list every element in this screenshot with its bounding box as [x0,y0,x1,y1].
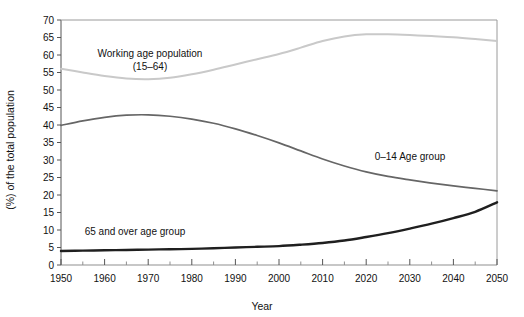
chart-canvas: 0510152025303540455055606570 19501960197… [0,0,524,317]
x-tick-labels: 1950196019701980199020002010202020302040… [50,273,509,284]
y-tick-label: 20 [43,190,55,201]
series-label: 65 and over age group [85,226,186,237]
y-tick-label: 30 [43,155,55,166]
y-tick-labels: 0510152025303540455055606570 [43,15,55,271]
x-tick-label: 1980 [181,273,204,284]
y-tick-label: 5 [48,242,54,253]
y-tick-label: 25 [43,172,55,183]
y-tick-label: 15 [43,207,55,218]
y-tick-label: 65 [43,32,55,43]
x-tick-label: 2010 [311,273,334,284]
y-axis-title: (%) of the total population [4,90,16,210]
x-tick-label: 2030 [399,273,422,284]
series-label: Working age population [98,48,203,59]
data-series-group [61,34,497,251]
y-tick-label: 10 [43,225,55,236]
y-tick-label: 50 [43,85,55,96]
y-tick-label: 35 [43,137,55,148]
x-tick-label: 2040 [442,273,465,284]
y-tick-label: 60 [43,50,55,61]
y-tick-label: 45 [43,102,55,113]
y-tick-label: 40 [43,120,55,131]
population-age-structure-chart: 0510152025303540455055606570 19501960197… [0,0,524,317]
x-tick-label: 1970 [137,273,160,284]
y-tick-label: 0 [48,260,54,271]
series-label: 0–14 Age group [375,151,446,162]
x-axis-title: Year [251,300,273,312]
y-tick-label: 70 [43,15,55,26]
series-annotations: Working age population(15–64)0–14 Age gr… [85,48,446,237]
x-tick-label: 2000 [268,273,291,284]
x-tick-label: 2050 [486,273,509,284]
y-tick-label: 55 [43,67,55,78]
series-label-line2: (15–64) [133,61,167,72]
x-tick-label: 1950 [50,273,73,284]
x-tick-label: 1990 [224,273,247,284]
x-tick-label: 1960 [93,273,116,284]
x-tick-label: 2020 [355,273,378,284]
